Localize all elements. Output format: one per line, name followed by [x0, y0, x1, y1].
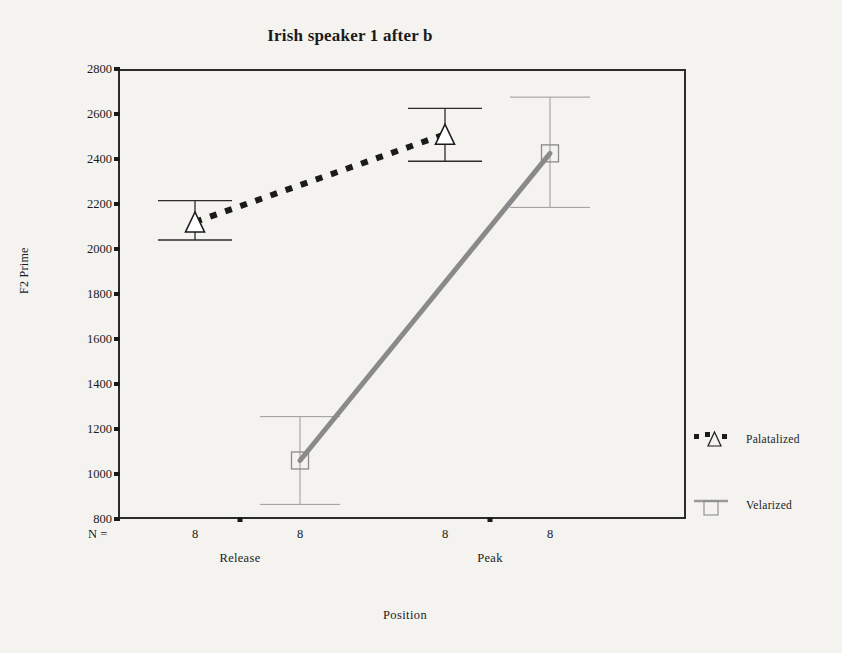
- legend-item-palatalized[interactable]: Palatalized: [692, 424, 800, 454]
- y-tick-mark: [114, 67, 120, 71]
- y-axis-title: F2 Prime: [17, 247, 32, 294]
- n-value: 8: [297, 527, 303, 542]
- y-tick-mark: [114, 157, 120, 161]
- n-value: 8: [442, 527, 448, 542]
- y-tick-label: 1600: [66, 332, 112, 347]
- y-tick-mark: [114, 112, 120, 116]
- legend-label-palatalized: Palatalized: [746, 433, 800, 445]
- plot-area: [118, 69, 686, 519]
- y-tick-label: 2600: [66, 107, 112, 122]
- n-value: 8: [192, 527, 198, 542]
- x-tick-mark: [238, 517, 243, 522]
- legend-item-velarized[interactable]: Velarized: [692, 490, 792, 520]
- chart-figure: Irish speaker 1 after b 2800260024002200…: [0, 0, 842, 653]
- y-tick-label: 1200: [66, 422, 112, 437]
- legend-label-velarized: Velarized: [746, 499, 792, 511]
- y-tick-label: 800: [66, 512, 112, 527]
- y-tick-mark: [114, 427, 120, 431]
- palatalized-marker-icon: [692, 426, 740, 452]
- x-category-label: Release: [220, 551, 261, 566]
- x-axis-title: Position: [0, 608, 810, 623]
- y-tick-label: 1000: [66, 467, 112, 482]
- n-value: 8: [547, 527, 553, 542]
- y-tick-label: 1400: [66, 377, 112, 392]
- y-axis-tick-labels: 2800260024002200200018001600140012001000…: [62, 0, 112, 653]
- y-tick-label: 2400: [66, 152, 112, 167]
- y-tick-label: 2200: [66, 197, 112, 212]
- y-tick-mark: [114, 517, 120, 521]
- y-tick-mark: [114, 202, 120, 206]
- y-tick-label: 2000: [66, 242, 112, 257]
- x-category-label: Peak: [477, 551, 503, 566]
- y-tick-mark: [114, 337, 120, 341]
- y-tick-mark: [114, 472, 120, 476]
- y-tick-label: 1800: [66, 287, 112, 302]
- y-tick-mark: [114, 247, 120, 251]
- y-tick-mark: [114, 292, 120, 296]
- velarized-marker-icon: [692, 492, 740, 518]
- y-tick-mark: [114, 382, 120, 386]
- y-tick-label: 2800: [66, 62, 112, 77]
- n-equals-label: N =: [88, 527, 107, 542]
- x-tick-mark: [488, 517, 493, 522]
